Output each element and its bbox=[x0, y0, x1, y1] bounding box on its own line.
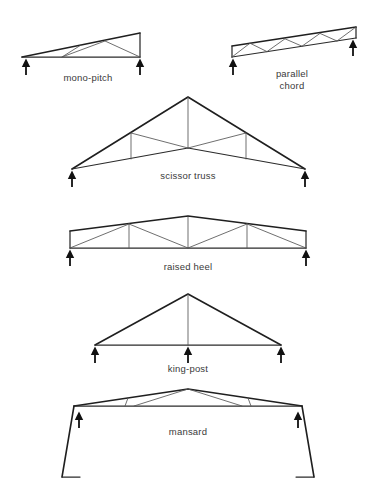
support-arrow bbox=[277, 347, 285, 364]
scissor-top-chord bbox=[72, 97, 305, 169]
mansard-web-left-vertical bbox=[125, 398, 128, 406]
support-arrow bbox=[302, 250, 310, 267]
mono-pitch-web-3 bbox=[105, 41, 140, 57]
truss-label-king-post: king-post bbox=[168, 363, 209, 374]
truss-scissor: scissor truss bbox=[68, 97, 309, 187]
raised-heel-web-left-inner-diagonal bbox=[129, 224, 188, 248]
parallel-chord-chords bbox=[232, 27, 356, 57]
mansard-web-right-diagonal bbox=[188, 389, 242, 406]
king-post-supports bbox=[91, 347, 285, 364]
truss-label-parallel-chord-line1: parallel bbox=[276, 68, 308, 79]
mansard-webs bbox=[125, 389, 251, 406]
support-arrow bbox=[301, 171, 309, 188]
mansard-top-chord bbox=[74, 389, 302, 406]
mono-pitch-web-2 bbox=[62, 41, 105, 57]
truss-mansard: mansard bbox=[62, 389, 314, 477]
raised-heel-web-right-inner-diagonal bbox=[188, 224, 247, 248]
support-arrow bbox=[22, 59, 30, 76]
truss-label-raised-heel: raised heel bbox=[164, 261, 213, 272]
support-arrow bbox=[66, 250, 74, 267]
support-arrow bbox=[294, 412, 302, 429]
support-arrow bbox=[229, 59, 237, 76]
mansard-right-leg bbox=[302, 406, 314, 477]
truss-label-parallel-chord-line2: chord bbox=[280, 80, 305, 91]
raised-heel-webs bbox=[70, 216, 306, 248]
truss-label-mono-pitch: mono-pitch bbox=[64, 72, 113, 83]
mansard-web-right-vertical bbox=[248, 398, 251, 406]
truss-parallel-chord: parallel chord bbox=[229, 27, 357, 91]
support-arrow bbox=[75, 412, 83, 429]
mansard-web-left-diagonal bbox=[134, 389, 188, 406]
support-arrow bbox=[136, 59, 144, 76]
truss-label-mansard: mansard bbox=[169, 426, 207, 437]
scissor-chords bbox=[72, 97, 305, 169]
mansard-left-leg bbox=[62, 406, 74, 477]
truss-types-figure: mono-pitch para bbox=[0, 0, 370, 490]
scissor-web-right-diagonal bbox=[188, 133, 246, 148]
truss-king-post: king-post bbox=[91, 294, 285, 374]
support-arrow bbox=[349, 40, 357, 57]
truss-label-scissor-truss: scissor truss bbox=[160, 170, 215, 181]
truss-raised-heel: raised heel bbox=[66, 216, 310, 272]
support-arrow bbox=[68, 171, 76, 188]
parallel-chord-web-4 bbox=[285, 39, 302, 46]
parallel-chord-web-6 bbox=[320, 33, 337, 41]
parallel-chord-webs bbox=[232, 27, 356, 57]
scissor-bottom-chord bbox=[72, 148, 305, 169]
support-arrow bbox=[91, 347, 99, 364]
truss-mono-pitch: mono-pitch bbox=[22, 33, 144, 83]
parallel-chord-web-2 bbox=[250, 43, 267, 51]
mono-pitch-webs bbox=[62, 41, 140, 57]
scissor-webs bbox=[131, 97, 246, 159]
scissor-web-left-diagonal bbox=[131, 133, 188, 148]
support-arrow bbox=[184, 347, 192, 364]
